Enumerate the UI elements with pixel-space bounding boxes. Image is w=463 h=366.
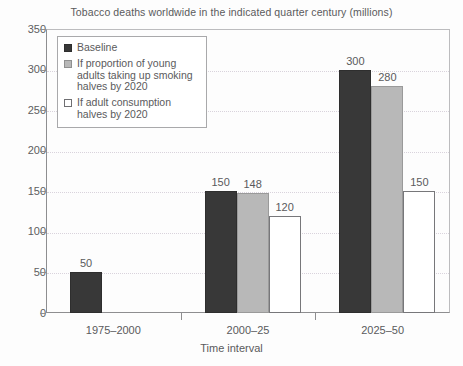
y-axis-tick-mark bbox=[40, 313, 46, 314]
legend-item-adult-consumption: If adult consumption halves by 2020 bbox=[64, 97, 200, 121]
x-axis-tick-label: 2025–50 bbox=[315, 324, 450, 336]
legend-item-baseline: Baseline bbox=[64, 42, 200, 54]
bar-value-label: 280 bbox=[365, 72, 409, 83]
x-axis-tick-mark bbox=[315, 313, 316, 320]
x-axis-tick-label: 1975–2000 bbox=[46, 324, 181, 336]
legend-label-young-adults: If proportion of young adults taking up … bbox=[77, 58, 200, 93]
bar-chart: Tobacco deaths worldwide in the indicate… bbox=[0, 0, 463, 366]
chart-legend: Baseline If proportion of young adults t… bbox=[57, 36, 207, 128]
y-axis: 050100150200250300350 bbox=[0, 0, 46, 366]
x-axis-tick-label: 2000–25 bbox=[181, 324, 316, 336]
bar bbox=[371, 86, 403, 313]
legend-swatch-icon-adult-consumption bbox=[64, 99, 72, 107]
x-axis-title: Time interval bbox=[0, 342, 463, 354]
x-axis-tick-mark bbox=[181, 313, 182, 320]
bar bbox=[403, 191, 435, 313]
legend-label-adult-consumption: If adult consumption halves by 2020 bbox=[77, 97, 200, 121]
bar-value-label: 120 bbox=[263, 202, 307, 213]
chart-title: Tobacco deaths worldwide in the indicate… bbox=[0, 6, 463, 18]
legend-swatch-icon-baseline bbox=[64, 44, 72, 52]
legend-swatch-icon-young-adults bbox=[64, 60, 72, 68]
bar bbox=[70, 272, 102, 313]
bar-value-label: 150 bbox=[397, 177, 441, 188]
bar-value-label: 148 bbox=[231, 179, 275, 190]
legend-label-baseline: Baseline bbox=[77, 42, 117, 54]
bar-value-label: 50 bbox=[64, 258, 108, 269]
bar bbox=[339, 70, 371, 313]
bar bbox=[205, 191, 237, 313]
bar bbox=[269, 216, 301, 313]
bar-value-label: 300 bbox=[333, 56, 377, 67]
legend-item-young-adults: If proportion of young adults taking up … bbox=[64, 58, 200, 93]
